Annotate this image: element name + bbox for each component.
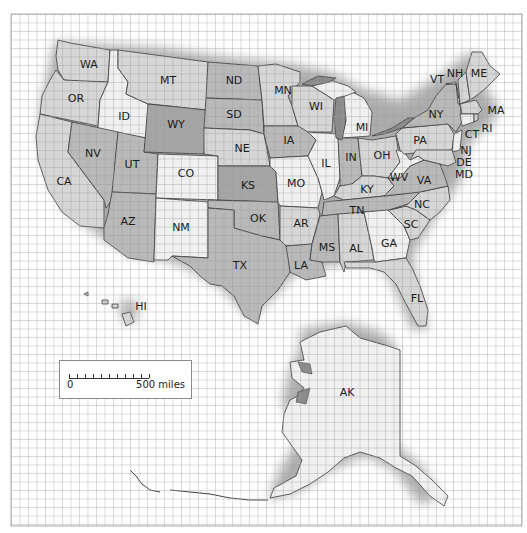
state-label-ct: CT [465, 128, 480, 141]
state-label-va: VA [417, 174, 432, 187]
scale-tick [101, 374, 102, 378]
state-label-ut: UT [125, 158, 140, 171]
state-label-ne: NE [234, 142, 249, 155]
state-label-mt: MT [160, 74, 176, 87]
state-label-mn: MN [274, 84, 292, 97]
scale-tick [133, 374, 134, 378]
scale-max-label: 500 miles [136, 379, 185, 390]
state-label-nc: NC [414, 198, 430, 211]
state-label-md: MD [455, 168, 473, 181]
state-label-wa: WA [80, 58, 98, 71]
state-label-mi: MI [356, 121, 369, 134]
state-label-wv: WV [390, 171, 409, 184]
state-label-ga: GA [381, 237, 398, 250]
state-label-ar: AR [293, 217, 309, 230]
state-label-ok: OK [250, 212, 267, 225]
state-label-ak: AK [340, 386, 356, 399]
scale-tick [117, 374, 118, 378]
grid-overlay [11, 14, 522, 526]
scale-tick [85, 374, 86, 378]
state-label-sc: SC [404, 218, 419, 231]
state-label-or: OR [68, 92, 85, 105]
state-label-ma: MA [487, 104, 504, 117]
state-label-fl: FL [411, 292, 424, 305]
state-label-pa: PA [413, 134, 427, 147]
state-label-tx: TX [232, 259, 248, 272]
state-label-in: IN [345, 151, 356, 164]
state-label-ia: IA [284, 134, 295, 147]
state-label-nd: ND [226, 74, 243, 87]
state-label-wi: WI [309, 100, 323, 113]
state-label-id: ID [118, 110, 130, 123]
us-map: WAORCAIDNVUTAZMTWYCONMNDSDNEKSOKTXMNIAMO… [0, 0, 527, 533]
state-label-al: AL [349, 242, 364, 255]
state-label-wy: WY [167, 118, 185, 131]
state-label-il: IL [321, 157, 331, 170]
state-label-hi: HI [135, 300, 147, 313]
state-label-co: CO [178, 167, 195, 180]
state-label-ri: RI [482, 122, 493, 135]
state-label-nh: NH [447, 67, 464, 80]
state-label-ky: KY [360, 183, 374, 196]
state-label-ny: NY [429, 108, 444, 121]
state-label-nm: NM [172, 221, 190, 234]
scale-tick [125, 374, 126, 378]
scale-bar-legend: 0 500 miles [59, 360, 192, 399]
scale-tick [109, 374, 110, 378]
scale-zero-label: 0 [67, 379, 73, 390]
scale-tick [77, 374, 78, 378]
scale-tick [69, 374, 70, 378]
state-label-me: ME [471, 67, 487, 80]
state-label-oh: OH [374, 149, 391, 162]
state-label-tn: TN [349, 204, 365, 217]
state-label-sd: SD [226, 108, 241, 121]
state-label-la: LA [294, 259, 308, 272]
state-label-nv: NV [85, 147, 101, 160]
state-label-vt: VT [430, 73, 445, 86]
state-label-mo: MO [287, 177, 305, 190]
state-label-ks: KS [241, 179, 255, 192]
state-label-az: AZ [120, 215, 136, 228]
scale-tick [141, 374, 142, 378]
state-label-ca: CA [56, 175, 72, 188]
state-label-ms: MS [319, 241, 335, 254]
scale-tick [93, 374, 94, 378]
scale-tick [149, 374, 150, 378]
